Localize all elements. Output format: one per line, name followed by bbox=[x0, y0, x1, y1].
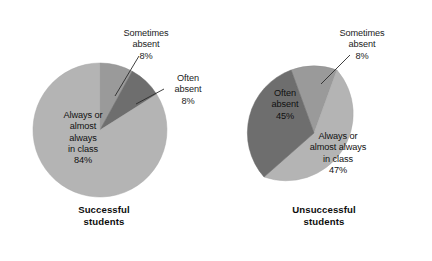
slice-label-line: in class bbox=[46, 144, 120, 155]
slice-label-line: absent bbox=[255, 99, 315, 110]
pie-chart-unsuccessful-students: Sometimes absent 8% Often absent 45% Alw… bbox=[216, 0, 432, 261]
slice-label-line: Often bbox=[255, 88, 315, 99]
callout-value: 8% bbox=[160, 96, 216, 107]
slice-label-often-absent: Often absent 45% bbox=[255, 88, 315, 122]
slice-label-line: Always or bbox=[286, 131, 390, 142]
caption-line: students bbox=[254, 216, 394, 228]
caption-line: Successful bbox=[48, 204, 160, 216]
callout-line: Sometimes bbox=[320, 28, 404, 39]
slice-label-value: 45% bbox=[255, 111, 315, 122]
slice-label-line: Always or bbox=[46, 110, 120, 121]
callout-value: 8% bbox=[104, 51, 188, 62]
slice-label-line: almost always bbox=[286, 142, 390, 153]
slice-label-line: almost bbox=[46, 121, 120, 132]
callout-line: Sometimes bbox=[104, 28, 188, 39]
slice-label-always-in-class: Always or almost always in class 47% bbox=[286, 131, 390, 176]
callout-sometimes-absent: Sometimes absent 8% bbox=[104, 28, 188, 62]
caption-line: Unsuccessful bbox=[254, 204, 394, 216]
callout-often-absent: Often absent 8% bbox=[160, 73, 216, 107]
slice-label-value: 47% bbox=[286, 165, 390, 176]
pie-chart-figure: Sometimes absent 8% Often absent 8% Alwa… bbox=[0, 0, 432, 261]
callout-value: 8% bbox=[320, 51, 404, 62]
caption-line: students bbox=[48, 216, 160, 228]
slice-label-value: 84% bbox=[46, 155, 120, 166]
callout-line: absent bbox=[160, 84, 216, 95]
callout-line: Often bbox=[160, 73, 216, 84]
slice-label-line: always bbox=[46, 133, 120, 144]
slice-label-always-in-class: Always or almost always in class 84% bbox=[46, 110, 120, 166]
callout-sometimes-absent: Sometimes absent 8% bbox=[320, 28, 404, 62]
callout-line: absent bbox=[320, 39, 404, 50]
slice-label-line: in class bbox=[286, 154, 390, 165]
chart-caption-successful: Successful students bbox=[48, 204, 160, 228]
callout-line: absent bbox=[104, 39, 188, 50]
pie-chart-successful-students: Sometimes absent 8% Often absent 8% Alwa… bbox=[0, 0, 216, 261]
chart-caption-unsuccessful: Unsuccessful students bbox=[254, 204, 394, 228]
